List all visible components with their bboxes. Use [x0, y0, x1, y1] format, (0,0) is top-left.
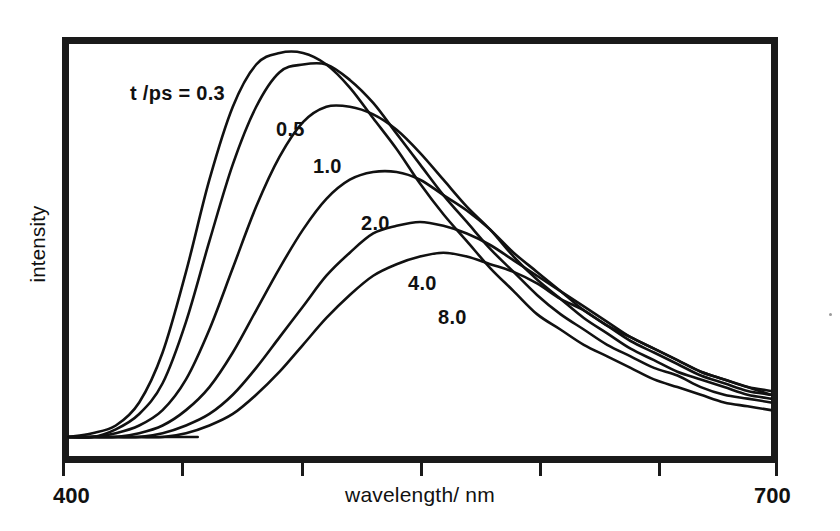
scan-speck	[829, 313, 832, 316]
x-tick-550	[420, 463, 423, 476]
figure-canvas: intensity wavelength/ nm 400 700 t /ps =…	[0, 0, 840, 531]
series-label-2.0: 2.0	[361, 212, 390, 235]
x-tick-650	[658, 463, 661, 476]
series-label-8.0: 8.0	[438, 306, 467, 329]
series-label-4.0: 4.0	[408, 272, 437, 295]
x-tick-400	[62, 463, 65, 476]
x-axis-max-label: 700	[754, 483, 791, 509]
series-label-1.0: 1.0	[313, 155, 342, 178]
x-axis-min-label: 400	[53, 483, 90, 509]
x-tick-700	[775, 463, 778, 476]
series-label-0.3: t /ps = 0.3	[130, 82, 225, 105]
x-tick-600	[539, 463, 542, 476]
x-tick-500	[301, 463, 304, 476]
x-tick-450	[181, 463, 184, 476]
y-axis-label: intensity	[26, 184, 50, 304]
series-label-0.5: 0.5	[276, 118, 305, 141]
x-axis-label: wavelength/ nm	[0, 483, 840, 507]
